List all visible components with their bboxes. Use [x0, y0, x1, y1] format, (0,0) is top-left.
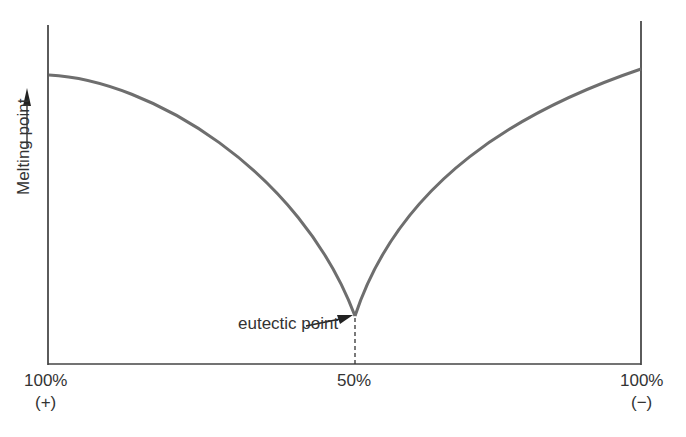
x-tick-right: 100%: [620, 371, 663, 391]
right-liquidus-curve: [355, 69, 641, 316]
x-tick-right-sub: (−): [631, 393, 652, 413]
eutectic-label: eutectic point: [238, 314, 338, 334]
x-tick-left-sub: (+): [35, 393, 56, 413]
left-liquidus-curve: [49, 75, 355, 316]
y-axis-label: Melting point: [14, 99, 34, 195]
x-tick-left: 100%: [24, 371, 67, 391]
x-tick-mid: 50%: [337, 371, 371, 391]
eutectic-arrowhead-icon: [337, 315, 353, 324]
